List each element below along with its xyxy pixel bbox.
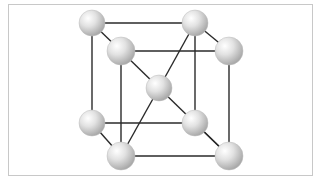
atom-back-bottom-left	[79, 110, 105, 136]
bcc-lattice-diagram	[0, 0, 317, 181]
atom-front-bottom-right	[215, 142, 243, 170]
atom-center	[146, 75, 172, 101]
atom-front-top-right	[215, 37, 243, 65]
atom-back-bottom-right	[182, 110, 208, 136]
atom-front-bottom-left	[107, 142, 135, 170]
atom-back-top-left	[79, 10, 105, 36]
atom-front-top-left	[107, 37, 135, 65]
atom-back-top-right	[182, 10, 208, 36]
